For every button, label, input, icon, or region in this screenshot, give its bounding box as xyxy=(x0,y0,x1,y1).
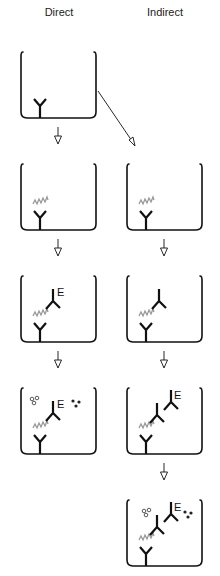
product-icon xyxy=(71,399,80,407)
capture-antibody-icon xyxy=(34,323,46,342)
down-arrow-icon xyxy=(161,351,168,368)
direct-arrow-1 xyxy=(55,127,62,144)
indirect-well-2 xyxy=(127,276,202,342)
capture-antibody-icon xyxy=(140,435,152,454)
well-icon xyxy=(127,276,202,342)
direct-arrow-3 xyxy=(55,351,62,368)
indirect-arrow-2 xyxy=(161,351,168,368)
enzyme-label: E xyxy=(57,286,64,298)
capture-antibody-icon xyxy=(140,323,152,342)
capture-antibody-icon xyxy=(140,547,152,566)
direct-arrow-2 xyxy=(55,239,62,256)
detection-antibody-icon xyxy=(150,515,164,535)
direct-well-3: E xyxy=(21,276,96,342)
detection-antibody-icon xyxy=(150,403,164,423)
indirect-well-4: E xyxy=(127,500,202,566)
substrate-icon xyxy=(142,508,151,517)
well-icon xyxy=(127,164,202,230)
well-icon xyxy=(21,52,96,118)
detection-antibody-icon xyxy=(152,289,166,309)
down-arrow-icon xyxy=(55,351,62,368)
down-arrow-icon xyxy=(161,463,168,480)
down-arrow-icon xyxy=(55,239,62,256)
elisa-diagram: E E E E xyxy=(0,0,220,576)
capture-antibody-icon xyxy=(34,435,46,454)
indirect-well-1 xyxy=(127,164,202,230)
direct-well-4: E xyxy=(21,388,96,454)
antigen-icon xyxy=(33,421,48,428)
antigen-icon xyxy=(33,197,48,204)
capture-antibody-icon xyxy=(34,211,46,230)
indirect-branch-arrow xyxy=(98,91,135,146)
antigen-icon xyxy=(33,309,48,316)
enzyme-label: E xyxy=(174,389,181,401)
indirect-well-3: E xyxy=(127,388,202,454)
down-arrow-icon xyxy=(55,127,62,144)
enzyme-label: E xyxy=(57,398,64,410)
product-icon xyxy=(183,510,192,518)
direct-well-1 xyxy=(21,52,96,118)
capture-antibody-icon xyxy=(140,211,152,230)
indirect-arrow-1 xyxy=(161,239,168,256)
enzyme-label: E xyxy=(174,501,181,513)
indirect-arrow-3 xyxy=(161,463,168,480)
direct-well-2 xyxy=(21,164,96,230)
well-icon xyxy=(21,164,96,230)
down-arrow-icon xyxy=(161,239,168,256)
substrate-icon xyxy=(30,396,39,405)
antigen-icon xyxy=(139,197,154,204)
capture-antibody-icon xyxy=(34,99,46,118)
antigen-icon xyxy=(139,309,154,316)
